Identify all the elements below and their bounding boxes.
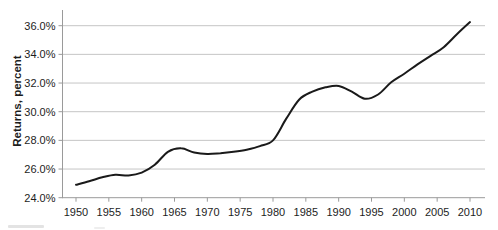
y-axis-title: Returns, percent — [11, 55, 23, 147]
returns-series-line — [76, 22, 470, 185]
gridlines — [63, 26, 486, 169]
axes — [59, 10, 486, 202]
line-series — [76, 22, 470, 185]
tick-labels: 24.0%26.0%28.0%30.0%32.0%34.0%36.0%19501… — [24, 20, 482, 218]
cutoff-caption-remnant — [94, 227, 105, 229]
x-tick-label: 1975 — [228, 206, 252, 218]
x-tick-label: 1995 — [359, 206, 383, 218]
y-tick-label: 24.0% — [24, 192, 55, 204]
cutoff-caption-remnant — [8, 225, 44, 228]
x-tick-label: 1955 — [97, 206, 121, 218]
x-tick-label: 1960 — [129, 206, 153, 218]
x-tick-label: 1965 — [162, 206, 186, 218]
x-tick-label: 2010 — [458, 206, 482, 218]
y-tick-label: 26.0% — [24, 163, 55, 175]
chart-canvas: 24.0%26.0%28.0%30.0%32.0%34.0%36.0%19501… — [0, 0, 498, 230]
y-tick-label: 30.0% — [24, 106, 55, 118]
x-tick-label: 1985 — [294, 206, 318, 218]
y-tick-label: 36.0% — [24, 20, 55, 32]
x-tick-label: 2000 — [392, 206, 416, 218]
y-tick-label: 34.0% — [24, 48, 55, 60]
y-tick-label: 28.0% — [24, 134, 55, 146]
x-tick-label: 1950 — [64, 206, 88, 218]
x-tick-label: 1970 — [195, 206, 219, 218]
x-tick-label: 2005 — [425, 206, 449, 218]
y-tick-label: 32.0% — [24, 77, 55, 89]
x-tick-label: 1990 — [326, 206, 350, 218]
x-tick-label: 1980 — [261, 206, 285, 218]
returns-line-chart: 24.0%26.0%28.0%30.0%32.0%34.0%36.0%19501… — [0, 0, 498, 230]
